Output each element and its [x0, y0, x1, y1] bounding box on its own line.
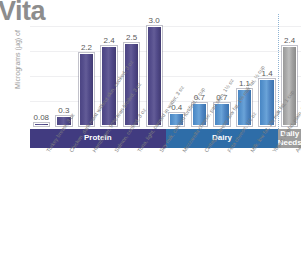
vitamin-b12-bar-chart: Vita Micrograms (µg) of 0.080.32.22.42.5… [0, 0, 301, 260]
bar-slot: 0.08 [30, 16, 53, 126]
bar-value-label: 2.4 [103, 36, 114, 45]
bar-value-label: 0.08 [33, 113, 49, 122]
bar-value-label: 2.5 [126, 33, 137, 42]
bar-value-label: 2.4 [284, 36, 295, 45]
y-axis-label: Micrograms (µg) of [14, 5, 21, 115]
bar-value-label: 0.3 [58, 106, 69, 115]
bar[interactable]: 3.0 [147, 26, 162, 126]
bar-slot: 0.3 [53, 16, 76, 126]
bar-value-label: 2.2 [81, 43, 92, 52]
bar-value-label: 3.0 [149, 16, 160, 25]
x-axis-tick-labels: Turkey breast, 3 ozChicken, dark meat wi… [30, 150, 301, 260]
category-separator-line [278, 14, 279, 145]
bar[interactable]: 0.08 [34, 123, 49, 126]
